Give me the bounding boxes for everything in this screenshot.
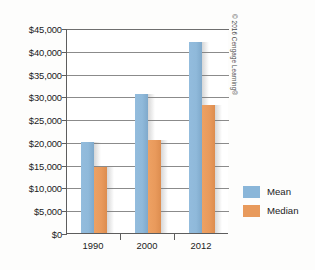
- legend: MeanMedian: [243, 182, 298, 220]
- x-axis-tick: [120, 234, 121, 240]
- y-axis-tick-label: $25,000: [0, 115, 62, 126]
- y-axis-tick: [62, 143, 67, 144]
- y-axis-tick-label: $40,000: [0, 46, 62, 57]
- legend-label-mean: Mean: [267, 186, 291, 197]
- x-axis-tick-label: 2000: [117, 240, 177, 251]
- y-axis-tick: [62, 166, 67, 167]
- legend-swatch-mean: [243, 186, 260, 198]
- y-axis-tick-label: $35,000: [0, 69, 62, 80]
- y-axis-tick-label: $30,000: [0, 92, 62, 103]
- legend-label-median: Median: [267, 205, 298, 216]
- x-axis-tick-label: 1990: [63, 240, 123, 251]
- legend-item-median: Median: [243, 201, 298, 220]
- x-axis-tick: [174, 234, 175, 240]
- gridline: [67, 29, 229, 30]
- copyright-credit-text: © 2016 Cengage Learning®: [231, 14, 238, 95]
- bar-2000-median: [148, 140, 161, 233]
- legend-item-mean: Mean: [243, 182, 298, 201]
- bar-shadow: [161, 140, 168, 233]
- y-axis-tick: [62, 234, 67, 235]
- y-axis-tick-label: $15,000: [0, 160, 62, 171]
- y-axis-tick-label: $10,000: [0, 183, 62, 194]
- y-axis-tick: [62, 97, 67, 98]
- x-axis-tick-label: 2012: [171, 240, 231, 251]
- y-axis-tick: [62, 75, 67, 76]
- bar-chart-figure: $45,000$40,000$35,000$30,000$25,000$20,0…: [0, 0, 315, 270]
- y-axis-tick: [62, 29, 67, 30]
- copyright-credit: © 2016 Cengage Learning®: [231, 14, 245, 110]
- y-axis-tick: [62, 188, 67, 189]
- y-axis-tick-label: $0: [0, 229, 62, 240]
- bar-shadow: [215, 105, 222, 233]
- y-axis-tick: [62, 120, 67, 121]
- y-axis-tick-label: $20,000: [0, 137, 62, 148]
- bar-2012-median: [202, 105, 215, 233]
- bar-2012-mean: [189, 42, 202, 233]
- y-axis-tick-label: $5,000: [0, 206, 62, 217]
- y-axis-tick-label: $45,000: [0, 24, 62, 35]
- bar-1990-mean: [81, 142, 94, 233]
- y-axis-tick: [62, 52, 67, 53]
- plot-area: [66, 29, 228, 234]
- legend-swatch-median: [243, 205, 260, 217]
- bar-shadow: [107, 167, 114, 233]
- bar-2000-mean: [135, 94, 148, 233]
- bar-1990-median: [94, 167, 107, 233]
- y-axis-tick: [62, 211, 67, 212]
